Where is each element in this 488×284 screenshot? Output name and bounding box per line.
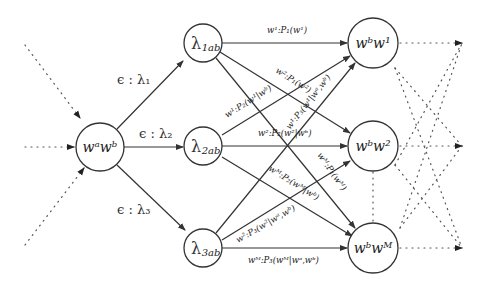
backoff-lattice-diagram: wᵃwᵇ λ 1ab λ 2ab λ 3ab wᵇw¹ wᵇw² wᵇwᴹ ϵ … — [0, 0, 488, 284]
svg-text:wᵇw¹: wᵇw¹ — [355, 35, 390, 51]
node-target-w1: wᵇw¹ — [348, 18, 398, 68]
node-target-w2: wᵇw² — [348, 121, 398, 171]
svg-text:3ab: 3ab — [202, 247, 221, 258]
svg-text:λ: λ — [191, 137, 201, 156]
edge-label-l3-t2: w²:P₃(w²|wᵃ,wᵇ) — [234, 203, 297, 246]
svg-text:λ: λ — [191, 239, 201, 258]
svg-text:wᵇw²: wᵇw² — [355, 138, 391, 154]
edge-label-l2-t2: w²:P₂(w²|wᵇ) — [258, 128, 312, 139]
node-target-wM: wᵇwᴹ — [348, 223, 398, 273]
svg-text:λ: λ — [191, 34, 201, 53]
node-source: wᵃwᵇ — [76, 123, 124, 171]
svg-text:1ab: 1ab — [202, 42, 221, 53]
node-lambda-1ab: λ 1ab — [184, 24, 222, 62]
incoming-dotted-edges — [25, 45, 84, 245]
svg-text:2ab: 2ab — [201, 145, 221, 156]
node-lambda-3ab: λ 3ab — [184, 229, 222, 267]
epsilon-label-2: ϵ : λ₂ — [139, 126, 172, 141]
svg-text:wᵃwᵇ: wᵃwᵇ — [83, 139, 118, 155]
node-lambda-2ab: λ 2ab — [184, 127, 222, 165]
epsilon-label-3: ϵ : λ₃ — [117, 202, 150, 217]
edge-label-l2-t1: w¹:P₂(w¹|wᵇ) — [223, 83, 274, 121]
svg-text:wᵇwᴹ: wᵇwᴹ — [354, 240, 394, 256]
edge-label-l3-tM: wᴹ:P₃(wᴹ|wᵃ,wᵇ) — [248, 255, 319, 266]
epsilon-label-1: ϵ : λ₁ — [117, 72, 150, 87]
edge-label-l1-t1: w¹:P₁(w¹) — [267, 25, 307, 35]
